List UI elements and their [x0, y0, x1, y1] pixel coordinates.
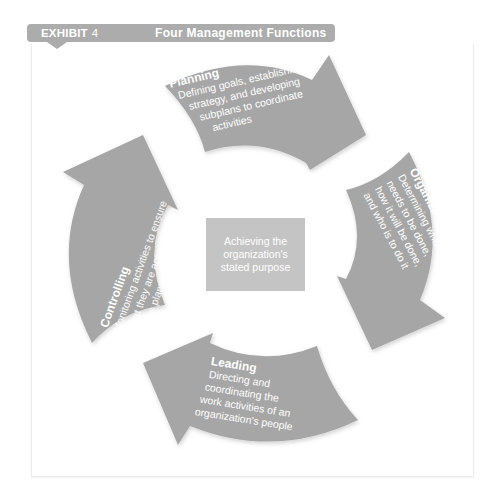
center-purpose-box: Achieving the organization's stated purp…: [206, 218, 305, 291]
leading-label: Leading Directing and coordinating the w…: [202, 355, 302, 433]
center-purpose-text: Achieving the organization's stated purp…: [211, 235, 301, 274]
